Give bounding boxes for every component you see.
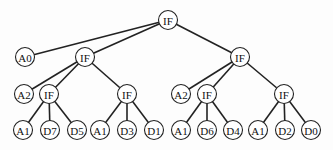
node-label: D4 [226, 125, 240, 137]
tree-node-if: IF [76, 48, 95, 67]
tree-node-if: IF [40, 85, 59, 104]
node-label: IF [122, 89, 132, 101]
node-label: IF [202, 89, 212, 101]
node-label: A0 [18, 52, 32, 64]
node-label: IF [80, 52, 90, 64]
node-label: D3 [120, 125, 134, 137]
tree-node-d6: D6 [198, 121, 217, 140]
tree-node-a0: A0 [16, 48, 35, 67]
tree-svg: IFA0IFIFA2IFIFA2IFIFA1D7D5A1D3D1A1D6D4A1… [0, 0, 333, 150]
tree-node-if: IF [231, 48, 250, 67]
tree-node-d3: D3 [118, 121, 137, 140]
node-label: D5 [70, 125, 84, 137]
tree-node-if: IF [118, 85, 137, 104]
node-label: A1 [174, 125, 187, 137]
tree-node-if: IF [198, 85, 217, 104]
tree-node-d4: D4 [224, 121, 243, 140]
node-layer: IFA0IFIFA2IFIFA2IFIFA1D7D5A1D3D1A1D6D4A1… [14, 11, 321, 140]
node-label: IF [279, 89, 289, 101]
node-label: D2 [278, 125, 291, 137]
tree-diagram: IFA0IFIFA2IFIFA2IFIFA1D7D5A1D3D1A1D6D4A1… [0, 0, 333, 150]
tree-node-if: IF [159, 11, 178, 30]
tree-node-a1: A1 [91, 121, 110, 140]
node-label: D1 [147, 125, 160, 137]
node-label: A1 [251, 125, 264, 137]
node-label: A2 [174, 89, 187, 101]
node-label: IF [44, 89, 54, 101]
tree-node-d0: D0 [302, 121, 321, 140]
node-label: D7 [43, 125, 57, 137]
tree-node-a1: A1 [249, 121, 268, 140]
tree-node-a2: A2 [15, 85, 34, 104]
tree-node-d7: D7 [41, 121, 60, 140]
node-label: IF [235, 52, 245, 64]
tree-node-d1: D1 [145, 121, 164, 140]
node-label: D6 [200, 125, 214, 137]
node-label: A2 [17, 89, 30, 101]
tree-node-a1: A1 [172, 121, 191, 140]
node-label: IF [163, 15, 173, 27]
tree-node-d5: D5 [68, 121, 87, 140]
tree-node-d2: D2 [276, 121, 295, 140]
tree-node-a1: A1 [14, 121, 33, 140]
edge-layer [23, 20, 311, 130]
tree-edge [168, 20, 240, 57]
tree-node-a2: A2 [172, 85, 191, 104]
tree-node-if: IF [275, 85, 294, 104]
node-label: A1 [93, 125, 106, 137]
node-label: A1 [16, 125, 29, 137]
node-label: D0 [304, 125, 318, 137]
